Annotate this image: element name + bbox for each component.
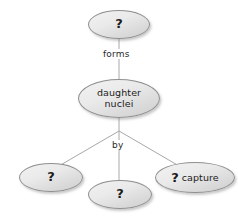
node-bottom-left-question[interactable]: ? — [19, 163, 83, 192]
concept-map-canvas: ? forms daughter nuclei by ? ? ? capture — [0, 0, 238, 219]
edge-label-forms: forms — [101, 49, 132, 59]
node-top-question[interactable]: ? — [88, 10, 150, 39]
node-bottom-middle-question[interactable]: ? — [88, 180, 152, 209]
node-bottom-right-capture-label: capture — [182, 172, 219, 183]
node-bottom-right-capture[interactable]: ? capture — [155, 162, 235, 193]
node-daughter-nuclei-label: daughter nuclei — [97, 88, 141, 109]
node-daughter-nuclei[interactable]: daughter nuclei — [78, 79, 160, 118]
node-bottom-middle-question-label: ? — [116, 187, 124, 201]
node-bottom-left-question-label: ? — [47, 170, 55, 184]
node-top-question-label: ? — [115, 17, 123, 31]
node-bottom-right-question-symbol: ? — [171, 171, 179, 184]
edge-label-by: by — [110, 140, 125, 150]
